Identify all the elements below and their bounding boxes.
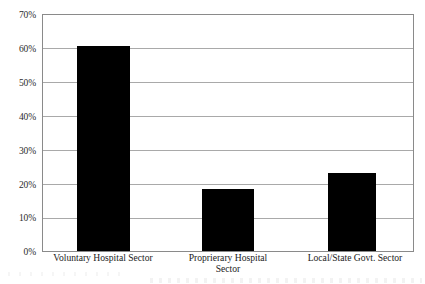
x-axis-label-proprierary-hospital-sector-line1: Proprierary Hospital — [170, 252, 286, 263]
y-axis-label-60: 60% — [0, 44, 36, 54]
x-axis-label-voluntary-hospital-sector: Voluntary Hospital Sector — [38, 252, 168, 263]
y-axis-label-30: 30% — [0, 146, 36, 156]
bar-proprierary-hospital-sector — [202, 189, 254, 251]
scan-artifact-bottom — [150, 278, 422, 283]
y-axis-label-50: 50% — [0, 78, 36, 88]
y-axis-label-40: 40% — [0, 112, 36, 122]
x-axis-label-proprierary-hospital-sector-line2: Sector — [170, 263, 286, 274]
plot-area — [42, 14, 414, 252]
bar-chart: 70% 60% 50% 40% 30% 20% 10% 0% Voluntary… — [0, 0, 425, 284]
scan-artifact-bottom-left — [8, 272, 128, 276]
y-axis-label-20: 20% — [0, 180, 36, 190]
y-axis-label-10: 10% — [0, 213, 36, 223]
bar-local-state-govt-sector — [328, 173, 376, 251]
y-axis-label-0: 0% — [0, 247, 36, 257]
y-axis-label-70: 70% — [0, 10, 36, 20]
bar-voluntary-hospital-sector — [77, 46, 130, 251]
x-axis-label-local-state-govt-sector: Local/State Govt. Sector — [290, 252, 420, 263]
